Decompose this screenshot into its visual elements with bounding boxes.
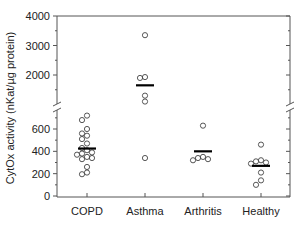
y-tick-label: 400 — [32, 145, 50, 157]
data-point — [79, 157, 84, 162]
data-point — [253, 182, 258, 187]
data-point — [89, 150, 94, 155]
data-point — [84, 141, 89, 146]
scatter-chart: 0200400600200030004000 COPDAsthmaArthrit… — [0, 0, 306, 227]
data-point — [84, 170, 89, 175]
data-point — [84, 126, 89, 131]
data-point — [142, 74, 147, 79]
data-points — [74, 33, 268, 188]
x-tick-label: COPD — [71, 205, 103, 217]
data-point — [79, 136, 84, 141]
y-tick-label: 200 — [32, 168, 50, 180]
y-tick-label: 0 — [44, 190, 50, 202]
data-point — [79, 117, 84, 122]
data-point — [84, 113, 89, 118]
data-point — [263, 160, 268, 165]
data-point — [142, 33, 147, 38]
y-tick-label: 3000 — [26, 40, 50, 52]
data-point — [137, 75, 142, 80]
data-point — [253, 159, 258, 164]
data-point — [84, 154, 89, 159]
data-point — [84, 164, 89, 169]
data-point — [258, 142, 263, 147]
data-point — [258, 170, 263, 175]
y-axis-ticks: 0200400600200030004000 — [26, 10, 290, 202]
data-point — [258, 178, 263, 183]
data-point — [200, 154, 205, 159]
data-point — [205, 157, 210, 162]
data-point — [79, 172, 84, 177]
data-point — [142, 155, 147, 160]
x-tick-label: Arthritis — [184, 205, 222, 217]
x-tick-label: Asthma — [126, 205, 164, 217]
data-point — [195, 155, 200, 160]
data-point — [142, 99, 147, 104]
data-point — [74, 152, 79, 157]
y-tick-label: 2000 — [26, 69, 50, 81]
y-tick-label: 600 — [32, 123, 50, 135]
data-point — [79, 131, 84, 136]
y-axis-label: CytOx activity (nKat/µg protein) — [4, 32, 16, 184]
data-point — [190, 158, 195, 163]
data-point — [79, 151, 84, 156]
mean-lines — [78, 85, 270, 166]
x-tick-label: Healthy — [242, 205, 280, 217]
y-tick-label: 4000 — [26, 10, 50, 22]
data-point — [258, 158, 263, 163]
data-point — [84, 133, 89, 138]
data-point — [200, 123, 205, 128]
data-point — [89, 155, 94, 160]
data-point — [142, 93, 147, 98]
plot-frame — [53, 16, 294, 197]
